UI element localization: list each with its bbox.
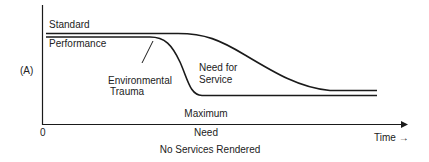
time-axis-label: Time → (374, 132, 409, 143)
maximum-need-label-line1: Maximum (176, 108, 236, 119)
no-services-rendered-caption: No Services Rendered (150, 144, 270, 155)
maximum-need-label-line2: Need (176, 127, 236, 138)
environmental-trauma-label-line1: Environmental (108, 75, 172, 86)
standard-label: Standard (49, 19, 90, 30)
x-axis-arrowhead (401, 121, 408, 128)
need-for-service-label-line1: Need for (199, 62, 237, 73)
y-axis-label: (A) (20, 65, 33, 76)
performance-label: Performance (49, 38, 106, 49)
origin-label: 0 (40, 127, 46, 138)
environmental-trauma-label-line2: Trauma (110, 86, 144, 97)
need-for-service-label-line2: Service (199, 74, 232, 85)
environmental-trauma-pointer (142, 41, 153, 63)
